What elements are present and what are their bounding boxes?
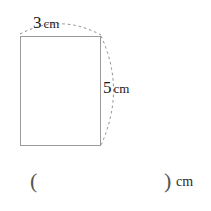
width-unit: cm <box>44 16 60 31</box>
answer-blank-field[interactable] <box>44 170 162 190</box>
rectangle-shape <box>21 37 101 146</box>
answer-open-paren: ( <box>30 170 37 192</box>
diagram-page: 3cm 5cm ( ) cm <box>0 0 211 211</box>
answer-close-paren: ) <box>164 170 171 192</box>
height-value: 5 <box>103 78 112 97</box>
answer-unit-label: cm <box>176 175 193 189</box>
width-label: 3cm <box>33 14 59 31</box>
width-value: 3 <box>33 13 42 32</box>
height-label: 5cm <box>103 79 129 96</box>
height-unit: cm <box>114 81 130 96</box>
answer-row: ( ) cm <box>0 166 211 194</box>
